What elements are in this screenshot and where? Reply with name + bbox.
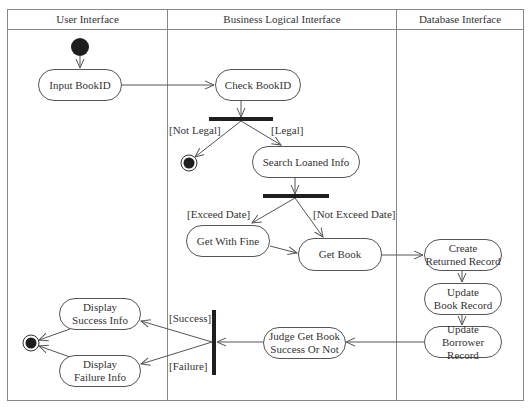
action-display-success-info[interactable]: Display Success Info xyxy=(59,298,141,330)
action-label-line-1: Display xyxy=(83,301,117,314)
guard-legal: [Legal] xyxy=(271,124,303,136)
action-search-loaned-info[interactable]: Search Loaned Info xyxy=(252,146,360,178)
guard-not-exceed-date: [Not Exceed Date] xyxy=(313,208,395,220)
action-check-bookid[interactable]: Check BookID xyxy=(215,69,301,101)
action-label-line-1: Update xyxy=(447,286,479,299)
action-label-line-1: Create xyxy=(449,242,478,255)
action-get-book[interactable]: Get Book xyxy=(298,238,382,271)
lane-title-business-logical-interface: Business Logical Interface xyxy=(168,10,396,29)
action-label-line-2: Success Or Not xyxy=(270,343,338,356)
initial-node-icon xyxy=(71,38,89,56)
decision-bar-1 xyxy=(209,117,273,121)
action-label-line-2: Failure Info xyxy=(74,371,126,384)
action-update-book-record[interactable]: Update Book Record xyxy=(424,283,502,315)
action-label-line-2: Book Record xyxy=(434,299,492,312)
action-update-borrower-record[interactable]: Update Borrower Record xyxy=(424,326,502,358)
guard-not-legal: [Not Legal] xyxy=(169,124,221,136)
action-label-line-1: Display xyxy=(83,358,117,371)
action-label-line-2: Success Info xyxy=(72,314,128,327)
flow-fine-to-getbook xyxy=(270,246,297,253)
flow-success xyxy=(141,321,212,342)
action-label: Check BookID xyxy=(225,79,291,92)
decision-bar-2 xyxy=(263,194,329,198)
action-label: Get Book xyxy=(319,248,361,261)
action-label: Input BookID xyxy=(49,79,110,92)
final-node-inner-icon xyxy=(184,158,195,169)
guard-failure: [Failure] xyxy=(169,360,207,372)
decision-bar-3 xyxy=(212,310,216,375)
flow-exceed-date xyxy=(252,198,295,223)
action-label: Get With Fine xyxy=(197,235,259,248)
guard-exceed-date: [Exceed Date] xyxy=(187,208,250,220)
action-label-line-2: Borrower Record xyxy=(425,336,501,362)
action-label-line-1: Judge Get Book xyxy=(269,330,340,343)
action-label-line-2: Returned Record xyxy=(426,255,501,268)
lane-title-database-interface: Database Interface xyxy=(397,10,523,29)
action-judge-get-book[interactable]: Judge Get Book Success Or Not xyxy=(263,327,346,359)
flow-success-to-end xyxy=(39,329,70,340)
guard-success: [Success] xyxy=(169,312,211,324)
action-create-returned-record[interactable]: Create Returned Record xyxy=(424,239,502,271)
final-node-end-inner-icon xyxy=(26,338,37,349)
flow-failure-to-end xyxy=(39,346,70,357)
action-label-line-1: Update xyxy=(447,323,479,336)
action-label: Search Loaned Info xyxy=(263,156,350,169)
action-display-failure-info[interactable]: Display Failure Info xyxy=(59,355,141,387)
lane-title-user-interface: User Interface xyxy=(8,10,167,29)
action-get-with-fine[interactable]: Get With Fine xyxy=(186,225,270,257)
action-input-bookid[interactable]: Input BookID xyxy=(38,69,122,101)
